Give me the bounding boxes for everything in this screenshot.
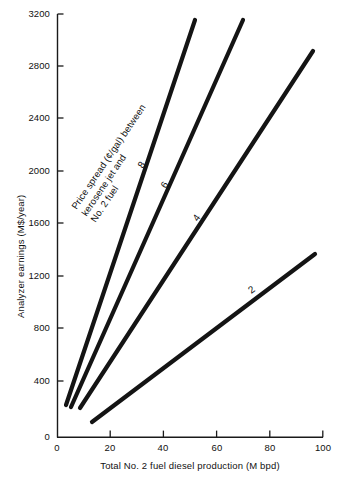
x-tick-label-40: 40 <box>149 443 177 453</box>
data-series-lines <box>66 20 315 422</box>
y-tick-label-3200: 3200 <box>8 9 50 19</box>
y-tick-label-0: 0 <box>8 432 50 442</box>
x-tick-label-100: 100 <box>309 443 337 453</box>
chart-plot-area <box>0 0 339 486</box>
x-axis-ticks <box>110 431 323 438</box>
x-axis-title: Total No. 2 fuel diesel production (M bp… <box>57 461 323 471</box>
y-tick-label-400: 400 <box>8 376 50 386</box>
x-tick-label-80: 80 <box>256 443 284 453</box>
x-tick-label-0: 0 <box>43 443 71 453</box>
x-tick-label-60: 60 <box>203 443 231 453</box>
cropped-caption <box>0 479 339 486</box>
y-axis-title: Analyzer earnings (M$/year) <box>16 195 26 318</box>
series-line-4 <box>80 51 313 408</box>
y-tick-label-800: 800 <box>8 323 50 333</box>
axis-lines <box>57 14 323 438</box>
x-tick-label-20: 20 <box>96 443 124 453</box>
y-tick-label-2800: 2800 <box>8 61 50 71</box>
y-tick-label-2400: 2400 <box>8 113 50 123</box>
y-tick-label-2000: 2000 <box>8 166 50 176</box>
y-axis-ticks <box>58 14 64 381</box>
chart-figure: 0 400 800 1200 1600 2000 2400 2800 3200 … <box>0 0 339 486</box>
